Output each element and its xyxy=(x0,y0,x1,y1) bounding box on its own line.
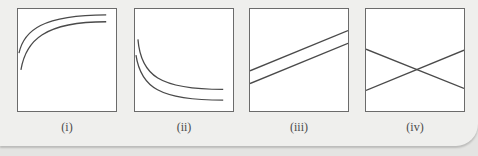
caption-iv: (iv) xyxy=(365,120,465,135)
caption-i: (i) xyxy=(17,120,117,135)
caption-ii: (ii) xyxy=(134,120,234,135)
saturating-curves-icon xyxy=(18,9,116,111)
caption-iii: (iii) xyxy=(249,120,349,135)
figure-panel: (i) (ii) (iii) (iv) xyxy=(0,0,478,146)
decay-curves-icon xyxy=(135,9,233,111)
parallel-lines-icon xyxy=(250,9,348,111)
graph-ii xyxy=(134,8,234,112)
graph-iii xyxy=(249,8,349,112)
graph-iv xyxy=(365,8,465,112)
graph-i xyxy=(17,8,117,112)
crossing-lines-icon xyxy=(366,9,464,111)
